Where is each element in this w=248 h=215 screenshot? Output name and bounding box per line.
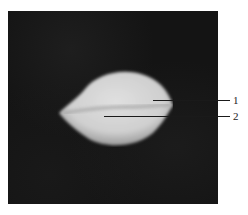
specimen-photo <box>8 11 218 204</box>
callout-2-label: 2 <box>233 111 239 122</box>
callout-2-leader <box>104 116 230 117</box>
callout-1-label: 1 <box>233 95 239 106</box>
callout-1-leader <box>153 100 230 101</box>
seed-specimen <box>57 67 173 147</box>
